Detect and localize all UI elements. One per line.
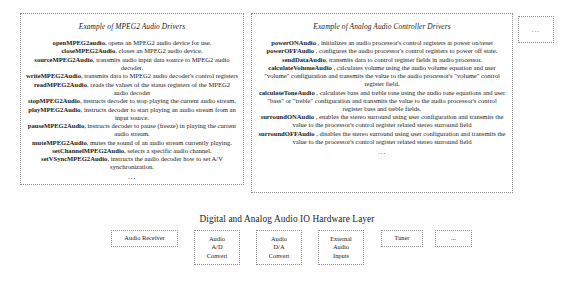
driver-function-name: readMPEG2Audio xyxy=(34,81,87,88)
driver-function-name: powerONAudio xyxy=(271,39,316,46)
additional-drivers-placeholder-box: ... xyxy=(518,16,554,43)
driver-entry: setChannelMPEG2Audio, selects a specific… xyxy=(26,147,238,155)
driver-function-name: surroundONAudio xyxy=(261,113,314,120)
hardware-component-box: ExternalAudioInputs xyxy=(318,230,364,265)
driver-function-description: , initializes an audio processor's contr… xyxy=(316,39,493,46)
analog-box-ellipsis: ... xyxy=(257,148,507,156)
driver-entry: readMPEG2Audio, reads the values of the … xyxy=(26,81,238,97)
driver-entry: powerOFFAudio , configures the audio pro… xyxy=(257,47,507,55)
hardware-component-label: Audio xyxy=(209,235,225,244)
driver-function-name: surroundOFFAudio xyxy=(258,130,314,137)
driver-function-name: sendDataAudio xyxy=(282,56,326,63)
driver-function-name: sourceMPEG2Audio xyxy=(34,56,93,63)
driver-function-name: playMPEG2Audio xyxy=(28,106,80,113)
hardware-layer-box-row: Audio ReceiverAudioA/DConvertAudioD/ACon… xyxy=(111,230,471,276)
driver-function-name: pauseMPEG2Audio xyxy=(28,122,84,129)
hardware-component-label: External xyxy=(330,235,352,244)
driver-function-name: muteMPEG2Audio xyxy=(32,139,87,146)
driver-entry: writeMPEG2Audio, transmits data to MPEG2… xyxy=(26,72,238,80)
driver-function-name: setChannelMPEG2Audio xyxy=(52,147,124,154)
driver-function-description: , closes an MPEG2 audio device. xyxy=(115,47,202,54)
hardware-component-label: Audio Receiver xyxy=(124,234,164,243)
diagram-canvas: Example of MPEG2 Audio Drivers openMPEG2… xyxy=(0,0,574,285)
driver-function-description: , instructs decoder to start playing an … xyxy=(81,106,236,121)
driver-function-description: , reads the values of the status registe… xyxy=(87,81,230,96)
mpeg2-box-ellipsis: ... xyxy=(26,173,238,181)
driver-function-description: , mutes the sound of an audio stream cur… xyxy=(87,139,232,146)
driver-entry: playMPEG2Audio, instructs decoder to sta… xyxy=(26,106,238,122)
analog-driver-entry-list: powerONAudio , initializes an audio proc… xyxy=(257,39,507,146)
driver-entry: powerONAudio , initializes an audio proc… xyxy=(257,39,507,47)
hardware-component-label: Audio xyxy=(333,243,349,252)
hardware-component-label: ... xyxy=(451,234,456,243)
driver-function-description: , transmits data to control register fie… xyxy=(326,56,482,63)
driver-entry: closeMPEG2Audio, closes an MPEG2 audio d… xyxy=(26,47,238,55)
driver-function-name: openMPEG2audio xyxy=(53,39,105,46)
driver-entry: setVSyncMPEG2Audio, instructs the audio … xyxy=(26,155,238,171)
hardware-component-box: AudioA/DConvert xyxy=(194,230,240,265)
driver-function-description: , configures the audio processor's contr… xyxy=(314,47,497,54)
hardware-layer-title: Digital and Analog Audio IO Hardware Lay… xyxy=(0,213,574,225)
hardware-component-label: A/D xyxy=(211,243,222,252)
driver-function-description: , selects a specific audio channel. xyxy=(124,147,212,154)
driver-function-description: , disables the stereo surround using use… xyxy=(293,130,506,145)
hardware-component-label: D/A xyxy=(273,243,284,252)
driver-entry: surroundOFFAudio , disables the stereo s… xyxy=(257,130,507,146)
hardware-component-box: Audio Receiver xyxy=(111,230,178,247)
mpeg2-driver-entry-list: openMPEG2audio, opens an MPEG2 audio dev… xyxy=(26,39,238,171)
driver-function-description: , instructs the audio decoder how to set… xyxy=(107,155,223,170)
hardware-component-box: AudioD/AConvert xyxy=(256,230,302,265)
driver-function-name: closeMPEG2Audio xyxy=(61,47,115,54)
driver-function-name: setVSyncMPEG2Audio xyxy=(41,155,107,162)
analog-audio-controller-drivers-box: Example of Analog Audio Controller Drive… xyxy=(251,13,513,193)
driver-function-name: stopMPEG2Audio xyxy=(28,97,80,104)
driver-entry: stopMPEG2Audio, instructs decoder to sto… xyxy=(26,97,238,105)
hardware-component-label: Tuner xyxy=(394,234,409,243)
driver-entry: sendDataAudio, transmits data to control… xyxy=(257,56,507,64)
driver-entry: surroundONAudio , enables the stereo sur… xyxy=(257,113,507,129)
driver-entry: muteMPEG2Audio, mutes the sound of an au… xyxy=(26,139,238,147)
analog-box-title: Example of Analog Audio Controller Drive… xyxy=(257,21,507,32)
driver-entry: sourceMPEG2Audio, transmits audio input … xyxy=(26,56,238,72)
driver-function-description: , transmits audio input data source to M… xyxy=(93,56,230,71)
hardware-component-label: Inputs xyxy=(333,252,349,261)
hardware-component-label: Convert xyxy=(207,252,228,261)
driver-function-name: calculateVolumeAudio xyxy=(268,64,332,71)
driver-function-name: calculateToneAudio xyxy=(259,89,315,96)
hardware-component-label: Audio xyxy=(271,235,287,244)
driver-function-description: , enables the stereo surround using user… xyxy=(293,113,504,128)
mpeg2-audio-drivers-box: Example of MPEG2 Audio Drivers openMPEG2… xyxy=(20,13,244,185)
hardware-component-label: Convert xyxy=(269,252,290,261)
hardware-component-box: Tuner xyxy=(381,230,423,247)
driver-function-description: , instructs decoder to stop playing the … xyxy=(80,97,236,104)
driver-function-name: powerOFFAudio xyxy=(267,47,315,54)
driver-entry: pauseMPEG2Audio, instructs decoder to pa… xyxy=(26,122,238,138)
driver-function-description: , instructs decoder to pause (freeze) in… xyxy=(84,122,236,137)
driver-entry: calculateVolumeAudio , calculates volume… xyxy=(257,64,507,88)
corner-box-ellipsis: ... xyxy=(532,27,540,33)
hardware-component-box: ... xyxy=(435,230,472,247)
driver-function-description: , transmits data to MPEG2 audio decoder'… xyxy=(81,72,238,79)
driver-function-description: , opens an MPEG2 audio device for use. xyxy=(105,39,211,46)
mpeg2-box-title: Example of MPEG2 Audio Drivers xyxy=(26,21,238,32)
driver-function-name: writeMPEG2Audio xyxy=(26,72,81,79)
driver-entry: calculateToneAudio , calculates bass and… xyxy=(257,89,507,113)
driver-entry: openMPEG2audio, opens an MPEG2 audio dev… xyxy=(26,39,238,47)
